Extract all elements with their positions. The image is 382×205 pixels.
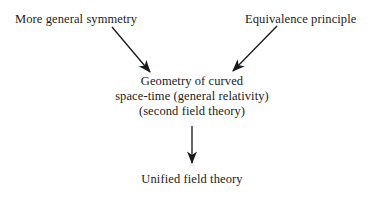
node-geometry-line-3: (second field theory) — [115, 104, 269, 119]
node-geometry-line-1: Geometry of curved — [115, 74, 269, 89]
node-unified-field-theory: Unified field theory — [141, 172, 242, 187]
arrow-symmetry-to-geometry — [112, 27, 150, 72]
node-more-general-symmetry-label: More general symmetry — [15, 12, 137, 27]
diagram-canvas: More general symmetry Equivalence princi… — [0, 0, 382, 205]
node-more-general-symmetry: More general symmetry — [15, 12, 137, 27]
node-equivalence-principle: Equivalence principle — [245, 12, 356, 27]
node-equivalence-principle-label: Equivalence principle — [245, 12, 356, 27]
node-geometry-of-curved-spacetime: Geometry of curved space-time (general r… — [115, 74, 269, 119]
arrow-equivalence-to-geometry — [233, 26, 277, 71]
node-unified-field-theory-label: Unified field theory — [141, 172, 242, 187]
node-geometry-line-2: space-time (general relativity) — [115, 89, 269, 104]
